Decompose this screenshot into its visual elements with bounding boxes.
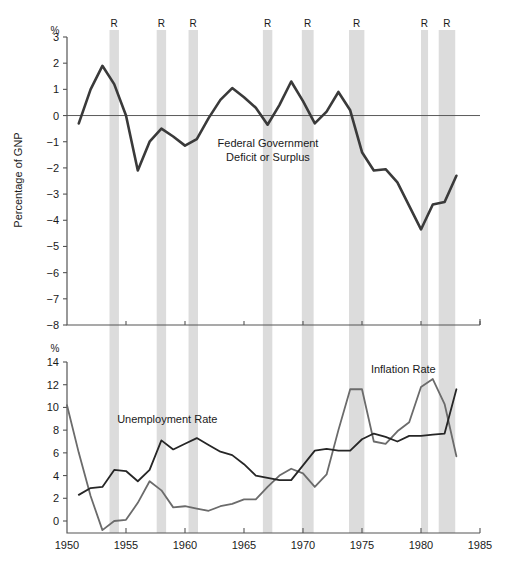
recession-label: R — [304, 18, 311, 29]
y-tick-label: 2 — [53, 492, 59, 504]
x-tick-label: 1985 — [468, 539, 492, 551]
deficit-axis-spine — [67, 37, 480, 325]
y-tick-label: −5 — [46, 240, 59, 252]
recession-label: R — [353, 18, 360, 29]
x-tick-label: 1975 — [350, 539, 374, 551]
y-tick-label: 4 — [53, 470, 59, 482]
y-tick-label: −2 — [46, 162, 59, 174]
inflation-rate-line — [67, 379, 456, 530]
rates-x-tick-labels: 19501955196019651970197519801985 — [55, 539, 492, 551]
y-tick-label: −7 — [46, 293, 59, 305]
rates-series-group — [67, 379, 456, 530]
x-tick-label: 1950 — [55, 539, 79, 551]
y-axis-title-deficit: Percentage of GNP — [12, 132, 24, 227]
recession-label: R — [190, 18, 197, 29]
recession-label: R — [421, 18, 428, 29]
y-tick-label: 6 — [53, 447, 59, 459]
y-tick-label: 8 — [53, 424, 59, 436]
recession-band — [157, 30, 166, 533]
recession-band — [421, 30, 428, 533]
recession-labels-group: RRRRRRRR — [110, 18, 450, 29]
percent-symbol-bottom: % — [51, 343, 60, 354]
chart-figure: RRRRRRRR 3210−1−2−3−4−5−6−7−8 1412108642… — [0, 0, 510, 576]
y-tick-label: 1 — [53, 83, 59, 95]
y-tick-label: −1 — [46, 136, 59, 148]
y-tick-label: −6 — [46, 267, 59, 279]
x-tick-label: 1960 — [173, 539, 197, 551]
x-tick-label: 1970 — [291, 539, 315, 551]
recession-label: R — [264, 18, 271, 29]
recession-band — [349, 30, 364, 533]
recession-label: R — [443, 18, 450, 29]
chart-canvas: RRRRRRRR 3210−1−2−3−4−5−6−7−8 1412108642… — [0, 0, 510, 576]
y-tick-label: −8 — [46, 319, 59, 331]
y-tick-label: −4 — [46, 214, 59, 226]
y-tick-label: 2 — [53, 57, 59, 69]
recession-band — [263, 30, 272, 533]
y-tick-label: 0 — [53, 515, 59, 527]
rates-y-tick-labels: 14121086420 — [47, 356, 59, 527]
inflation-rate-label: Inflation Rate — [371, 363, 436, 375]
percent-symbol-top: % — [51, 25, 60, 36]
y-tick-label: 12 — [47, 379, 59, 391]
unemployment-rate-label: Unemployment Rate — [117, 413, 217, 425]
deficit-annotation-line2: Deficit or Surplus — [226, 151, 310, 163]
deficit-y-tick-labels: 3210−1−2−3−4−5−6−7−8 — [46, 31, 59, 331]
x-tick-label: 1955 — [114, 539, 138, 551]
recession-bands-group — [109, 30, 455, 533]
x-tick-label: 1965 — [232, 539, 256, 551]
recession-band — [189, 30, 198, 533]
y-tick-label: 14 — [47, 356, 59, 368]
y-tick-label: −3 — [46, 188, 59, 200]
recession-band — [302, 30, 314, 533]
x-tick-label: 1980 — [409, 539, 433, 551]
recession-label: R — [110, 18, 117, 29]
rates-axis-spine — [67, 362, 480, 533]
recession-label: R — [158, 18, 165, 29]
y-tick-label: 0 — [53, 110, 59, 122]
recession-band — [109, 30, 118, 533]
recession-band — [439, 30, 456, 533]
deficit-annotation-line1: Federal Government — [218, 137, 319, 149]
y-tick-label: 10 — [47, 401, 59, 413]
